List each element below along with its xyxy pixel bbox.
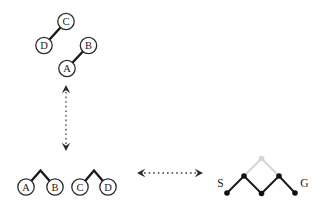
figure-canvas: C D B A A B C D [0, 0, 322, 210]
vertical-arrow-up-head [62, 85, 70, 93]
gray-edge-right [262, 159, 280, 177]
graph-node-mid-left [241, 173, 247, 179]
pair-node-d-label: D [104, 182, 112, 193]
node-d-label: D [40, 40, 48, 51]
horizontal-arrow-left-head [137, 169, 145, 177]
state-abstraction-diagram: C D B A A B C D [0, 0, 322, 210]
graph-edge-down-g [279, 176, 295, 193]
pair-node-b-label: B [51, 182, 58, 193]
horizontal-arrow-right-head [195, 169, 203, 177]
graph-node-mid-right [276, 173, 282, 179]
graph-node-top-gray [259, 156, 265, 162]
graph-edge-s-up [227, 176, 244, 193]
chain-d-c: C D [36, 13, 74, 53]
pair-a-b: A B [18, 171, 63, 196]
pair-c-d: C D [72, 171, 116, 196]
pair-node-a-label: A [22, 182, 30, 193]
state-graph: S G [217, 156, 308, 197]
pair-node-c-label: C [76, 182, 83, 193]
graph-edge-mid-up [262, 176, 280, 194]
start-label: S [217, 177, 223, 189]
graph-node-goal [292, 190, 298, 196]
graph-node-bottom-mid [259, 191, 265, 197]
node-b-label: B [85, 40, 92, 51]
vertical-arrow-down-head [62, 143, 70, 151]
vertical-dotted-arrow-icon [62, 85, 70, 151]
graph-node-start [224, 190, 230, 196]
gray-edge-left [244, 159, 262, 177]
horizontal-dotted-arrow-icon [137, 169, 203, 177]
graph-edge-down-mid [244, 176, 262, 194]
goal-label: G [300, 177, 308, 189]
node-a-label: A [63, 63, 71, 74]
chain-a-b: B A [59, 37, 97, 76]
node-c-label: C [62, 16, 69, 27]
